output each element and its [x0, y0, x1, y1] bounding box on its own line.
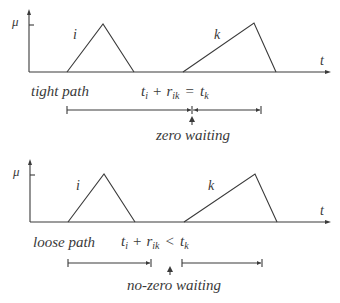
fuzzy-timing-diagram: μ t i k tight path ti+rik=tk	[0, 0, 340, 303]
fuzzy-triangle-k	[183, 23, 276, 72]
interval-bar-k	[182, 259, 262, 267]
triangle-i-label: i	[76, 178, 80, 193]
path-label: tight path	[31, 83, 89, 99]
path-label: loose path	[33, 234, 95, 250]
interval-bar-k	[187, 106, 261, 114]
timing-equation: ti+rik<tk	[121, 233, 189, 251]
tight-path-diagram: μ t i k tight path ti+rik=tk	[11, 9, 331, 143]
x-axis-label: t	[320, 53, 325, 68]
y-axis-label: μ	[12, 164, 20, 179]
interval-bar-i	[68, 259, 151, 267]
triangle-i-label: i	[73, 27, 77, 42]
fuzzy-triangle-i	[67, 24, 134, 72]
y-axis-label: μ	[11, 14, 19, 29]
waiting-pointer-arrow-icon	[189, 116, 195, 125]
triangle-k-label: k	[214, 27, 221, 42]
timing-equation: ti+rik=tk	[141, 83, 209, 101]
waiting-label: zero waiting	[155, 127, 231, 143]
waiting-label: no-zero waiting	[127, 277, 222, 293]
fuzzy-triangle-k	[184, 174, 277, 222]
interval-bar-i	[67, 106, 191, 114]
x-axis-arrow-icon	[325, 70, 331, 74]
loose-path-diagram: μ t i k loose path ti+rik<tk no-zero wai	[12, 159, 331, 293]
triangle-k-label: k	[208, 178, 215, 193]
waiting-pointer-arrow-icon	[167, 266, 173, 275]
y-axis-arrow-icon	[27, 9, 31, 15]
x-axis-arrow-icon	[325, 220, 331, 224]
x-axis-label: t	[320, 203, 325, 218]
y-axis-arrow-icon	[28, 159, 32, 165]
